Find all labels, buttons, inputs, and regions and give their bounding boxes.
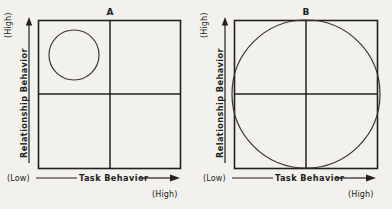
- panel-a-x-axis-arrow-icon: [170, 174, 180, 181]
- panel-b-x-axis-high-label: (High): [348, 190, 374, 199]
- panel-a-x-axis-low-label: (Low): [7, 174, 30, 183]
- panel-b: B Relationship Behavior (High) (Low) Tas…: [200, 7, 380, 199]
- quadrant-diagram-svg: A Relationship Behavior (High) (Low) Tas…: [0, 0, 392, 209]
- panel-a-label: A: [106, 7, 113, 17]
- panel-b-x-axis-arrow-icon: [366, 174, 376, 181]
- panel-a: A Relationship Behavior (High) (Low) Tas…: [4, 7, 181, 199]
- panel-b-x-axis-title: Task Behavior: [275, 173, 345, 183]
- panel-a-y-axis-title: Relationship Behavior: [19, 47, 29, 157]
- panel-a-data-circle: [49, 30, 99, 80]
- panel-b-y-axis-title: Relationship Behavior: [215, 47, 225, 157]
- panel-b-label: B: [302, 7, 309, 17]
- panel-a-y-axis-arrow-icon: [26, 17, 32, 26]
- panel-b-y-axis-arrow-icon: [222, 17, 228, 26]
- panel-a-x-axis-title: Task Behavior: [79, 173, 149, 183]
- panel-b-y-axis-high-label: (High): [200, 12, 209, 38]
- panel-a-x-axis-high-label: (High): [152, 190, 178, 199]
- figure-root: A Relationship Behavior (High) (Low) Tas…: [0, 0, 392, 209]
- panel-a-y-axis-high-label: (High): [4, 12, 13, 38]
- panel-b-x-axis-low-label: (Low): [203, 174, 226, 183]
